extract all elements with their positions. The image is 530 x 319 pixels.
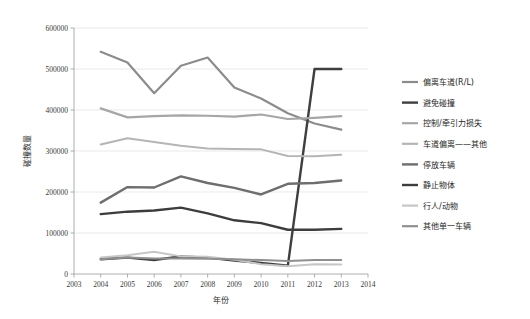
x-axis-ticks: 2003200420052006200720082009201020112012… [67, 274, 376, 289]
x-tick-label: 2012 [307, 280, 322, 289]
x-tick-label: 2014 [361, 280, 376, 289]
y-tick-label: 100000 [46, 229, 69, 238]
legend-label-7[interactable]: 其他单一车辆 [423, 221, 471, 231]
y-tick-label: 400000 [46, 106, 69, 115]
y-axis-ticks: 0100000200000300000400000500000600000 [46, 24, 75, 279]
legend-label-1[interactable]: 避免碰撞 [423, 98, 455, 108]
line-chart-figure: 0100000200000300000400000500000600000200… [0, 0, 530, 319]
x-tick-label: 2011 [280, 280, 295, 289]
legend-label-2[interactable]: 控制/牵引力损失 [423, 118, 482, 128]
legend-label-6[interactable]: 行人/动物 [423, 201, 458, 211]
y-tick-label: 200000 [46, 188, 69, 197]
x-tick-label: 2010 [254, 280, 269, 289]
y-tick-label: 500000 [46, 65, 69, 74]
x-tick-label: 2004 [93, 280, 108, 289]
y-tick-label: 0 [64, 270, 68, 279]
x-tick-label: 2013 [334, 280, 349, 289]
legend-label-3[interactable]: 车道偏离——其他 [423, 139, 487, 149]
x-tick-label: 2009 [227, 280, 242, 289]
x-axis-title: 年份 [213, 295, 229, 305]
y-tick-label: 600000 [46, 24, 69, 33]
x-tick-label: 2008 [200, 280, 215, 289]
y-tick-label: 300000 [46, 147, 69, 156]
x-tick-label: 2007 [173, 280, 188, 289]
chart-canvas: 0100000200000300000400000500000600000200… [0, 0, 530, 319]
legend: 偏离车道(R/L)避免碰撞控制/牵引力损失车道偏离——其他停放车辆静止物体行人/… [402, 77, 487, 231]
x-tick-label: 2006 [147, 280, 162, 289]
legend-label-0[interactable]: 偏离车道(R/L) [423, 77, 474, 87]
x-tick-label: 2003 [67, 280, 82, 289]
legend-label-4[interactable]: 停放车辆 [423, 160, 455, 170]
legend-label-5[interactable]: 静止物体 [423, 180, 455, 190]
x-tick-label: 2005 [120, 280, 135, 289]
y-axis-title: 碰撞数量 [22, 135, 32, 167]
